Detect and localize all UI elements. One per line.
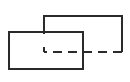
front-rectangle	[9, 32, 83, 69]
overlapping-rectangles-diagram	[0, 0, 130, 82]
diagram-canvas	[0, 0, 130, 82]
